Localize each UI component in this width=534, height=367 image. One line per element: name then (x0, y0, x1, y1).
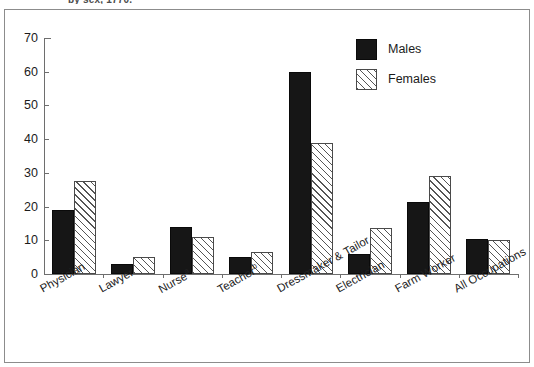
bar-males-2 (170, 227, 192, 274)
y-axis-tick-label: 10 (0, 234, 38, 247)
x-axis-tick-mark (281, 274, 282, 278)
y-axis-top-cap (44, 38, 51, 39)
bar-females-1 (133, 257, 155, 274)
chart-legend: Males Females (356, 34, 506, 94)
y-axis-tick-mark (44, 72, 49, 73)
y-axis-tick-label: 70 (0, 32, 38, 45)
legend-label-males: Males (388, 42, 421, 56)
x-axis-tick-mark (340, 274, 341, 278)
bar-males-6 (407, 202, 429, 274)
bar-females-0 (74, 181, 96, 274)
y-axis-tick-mark (44, 240, 49, 241)
y-axis-tick-label: 60 (0, 66, 38, 79)
x-axis-tick-mark (163, 274, 164, 278)
y-axis-tick-label: 20 (0, 201, 38, 214)
y-axis-tick-mark (44, 207, 49, 208)
legend-item-males: Males (356, 34, 506, 64)
y-axis-tick-mark (44, 274, 49, 275)
y-axis-tick-label: 40 (0, 133, 38, 146)
legend-item-females: Females (356, 64, 506, 94)
legend-swatch-females-icon (356, 69, 377, 90)
y-axis-tick-label: 50 (0, 99, 38, 112)
x-axis-tick-mark (103, 274, 104, 278)
bar-males-0 (52, 210, 74, 274)
legend-label-females: Females (388, 72, 436, 86)
legend-swatch-males-icon (356, 39, 377, 60)
y-axis-tick-label: 30 (0, 167, 38, 180)
y-axis-tick-mark (44, 173, 49, 174)
x-axis-tick-mark (400, 274, 401, 278)
y-axis-tick-mark (44, 105, 49, 106)
y-axis-tick-label: 0 (0, 268, 38, 281)
bar-females-2 (192, 237, 214, 274)
y-axis-tick-mark (44, 139, 49, 140)
x-axis-tick-mark (518, 274, 519, 278)
x-axis-tick-mark (222, 274, 223, 278)
x-axis-tick-mark (459, 274, 460, 278)
bar-males-4 (289, 72, 311, 274)
bar-chart-plot: 706050403020100 PhysicianLawyerNurseaTea… (0, 0, 534, 367)
